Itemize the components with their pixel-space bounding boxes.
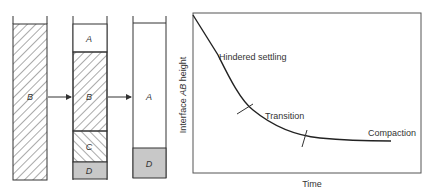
settling-diagram: B A B C D A D Hindered settling Transiti… xyxy=(0,0,433,195)
label-compaction: Compaction xyxy=(368,128,416,138)
label-hindered-settling: Hindered settling xyxy=(219,52,287,62)
layer-label-a: A xyxy=(85,34,92,44)
column-initial: B xyxy=(13,16,47,180)
column-intermediate: A B C D xyxy=(73,16,107,180)
tick-transition-start xyxy=(237,104,253,114)
settling-curve xyxy=(193,15,391,141)
layer-label-d: D xyxy=(146,159,153,169)
layer-label-b: B xyxy=(27,92,33,102)
y-axis-label: Interface AB height xyxy=(178,56,188,133)
tick-transition-end xyxy=(302,130,307,147)
x-axis-label: Time xyxy=(302,179,322,189)
plot-frame xyxy=(193,13,421,173)
layer-label-d: D xyxy=(86,166,93,176)
settling-curve-chart: Hindered settling Transition Compaction … xyxy=(178,13,421,189)
label-transition: Transition xyxy=(265,111,304,121)
layer-label-a: A xyxy=(145,92,152,102)
layer-label-c: C xyxy=(86,142,93,152)
layer-label-b: B xyxy=(86,92,92,102)
column-final: A D xyxy=(133,16,166,178)
